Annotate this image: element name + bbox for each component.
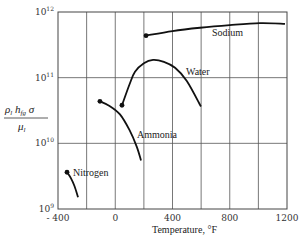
label-water: Water — [186, 66, 210, 77]
sodium-start-marker — [144, 33, 149, 38]
x-tick-label: - 400 — [46, 213, 69, 223]
y-tick-label: 1010 — [35, 136, 54, 148]
axis-ticks: - 40004008001200109101010111012 — [35, 5, 299, 223]
ammonia-start-marker — [98, 99, 103, 104]
plot-grid — [58, 12, 287, 209]
x-tick-label: 1200 — [276, 213, 299, 223]
x-axis-title: Temperature, °F — [152, 224, 217, 235]
y-tick-label: 1012 — [35, 5, 54, 17]
y-tick-label: 1011 — [35, 71, 54, 83]
water-start-marker — [120, 103, 125, 108]
svg-text:μl: μl — [17, 120, 26, 134]
svg-text:ρl hfg σ: ρl hfg σ — [4, 103, 35, 117]
x-tick-label: 400 — [164, 213, 181, 223]
x-tick-label: 0 — [112, 213, 118, 223]
liquid-transport-factor-chart: - 40004008001200109101010111012 Sodium W… — [0, 0, 302, 239]
nitrogen-start-marker — [65, 170, 70, 175]
label-ammonia: Ammonia — [137, 129, 178, 140]
y-axis-title: ρl hfg σ μl — [4, 103, 48, 134]
label-nitrogen: Nitrogen — [73, 167, 109, 178]
x-tick-label: 800 — [221, 213, 238, 223]
label-sodium: Sodium — [212, 27, 243, 38]
ammonia-curve — [100, 101, 141, 160]
